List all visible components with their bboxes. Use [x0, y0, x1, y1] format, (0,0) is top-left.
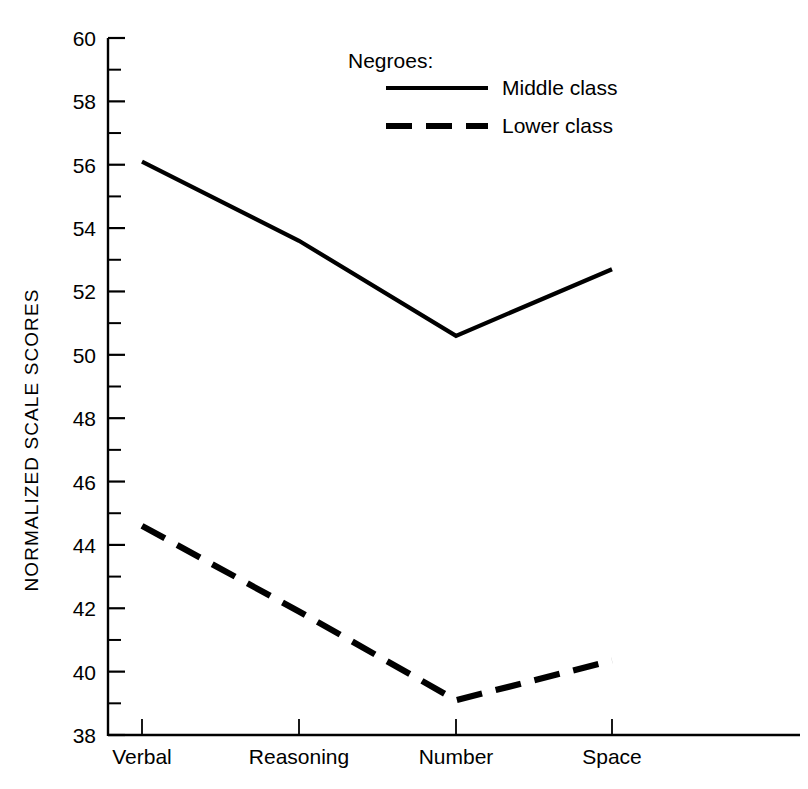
- x-category-label-space: Space: [582, 745, 642, 768]
- y-tick-label: 50: [73, 344, 96, 367]
- y-tick-label: 56: [73, 154, 96, 177]
- y-axis-title: NORMALIZED SCALE SCORES: [21, 289, 42, 592]
- x-category-label-verbal: Verbal: [112, 745, 172, 768]
- y-tick-label: 54: [73, 217, 97, 240]
- y-tick-label: 60: [73, 27, 96, 50]
- chart-legend: Negroes: Middle class Lower class: [348, 49, 618, 137]
- y-tick-label: 52: [73, 280, 96, 303]
- legend-label-middle-class: Middle class: [502, 76, 618, 99]
- x-axis-ticks: [142, 719, 612, 735]
- y-tick-label: 44: [73, 534, 97, 557]
- y-axis-tick-labels: 384042444648505254565860: [73, 27, 97, 747]
- y-tick-label: 58: [73, 90, 96, 113]
- y-tick-label: 38: [73, 724, 96, 747]
- y-tick-label: 40: [73, 661, 96, 684]
- x-category-label-reasoning: Reasoning: [249, 745, 349, 768]
- x-category-label-number: Number: [419, 745, 494, 768]
- legend-title: Negroes:: [348, 49, 433, 72]
- y-tick-label: 42: [73, 597, 96, 620]
- series-line-middle-class: [142, 162, 612, 336]
- y-axis-ticks: [108, 38, 125, 735]
- legend-label-lower-class: Lower class: [502, 114, 613, 137]
- y-tick-label: 46: [73, 471, 96, 494]
- y-tick-label: 48: [73, 407, 96, 430]
- x-axis-category-labels: VerbalReasoningNumberSpace: [112, 745, 642, 768]
- series-line-lower-class: [142, 526, 612, 700]
- line-chart-svg: 384042444648505254565860 VerbalReasoning…: [0, 0, 808, 789]
- chart-figure: 384042444648505254565860 VerbalReasoning…: [0, 0, 808, 789]
